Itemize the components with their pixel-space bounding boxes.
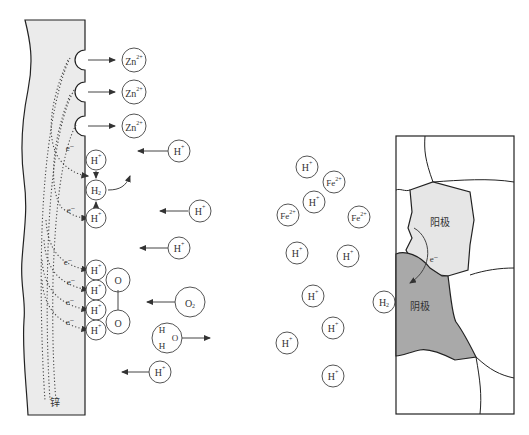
electron-label: e⁻ bbox=[430, 254, 439, 264]
zinc-label: 锌 bbox=[50, 396, 60, 408]
solution-species: H+ H+ H+ O2 H H O H+ bbox=[122, 140, 211, 383]
electron-label: e⁻ bbox=[67, 277, 76, 287]
corrosion-diagram: 锌 e⁻ e⁻ e⁻ e⁻ e⁻ e⁻ Zn2+ Zn2+ Zn2+ H+ bbox=[0, 0, 529, 435]
surface-species: H+ H2 H+ H+ H+ H+ H+ O O bbox=[86, 150, 130, 340]
electron-label: e⁻ bbox=[67, 205, 76, 215]
electron-label: e⁻ bbox=[64, 257, 73, 267]
cathode-label: 阴极 bbox=[410, 300, 430, 312]
electron-label: e⁻ bbox=[66, 317, 75, 327]
svg-text:H: H bbox=[159, 341, 166, 351]
oxygen-atom: O bbox=[114, 318, 121, 329]
svg-text:O: O bbox=[172, 333, 179, 343]
middle-ions: H+ Fe2+ H+ Fe2+ Fe2+ H+ H+ H+ H+ H+ H+ H… bbox=[276, 156, 395, 387]
zinc-electrode: 锌 bbox=[22, 20, 85, 415]
zinc-ions: Zn2+ Zn2+ Zn2+ bbox=[88, 48, 146, 138]
anode-label: 阳极 bbox=[430, 216, 450, 228]
iron-grain-structure: 阳极 阴极 e⁻ bbox=[396, 136, 514, 414]
electron-label: e⁻ bbox=[66, 297, 75, 307]
electron-label: e⁻ bbox=[66, 143, 75, 153]
svg-text:H: H bbox=[159, 325, 166, 335]
oxygen-atom: O bbox=[114, 275, 121, 286]
